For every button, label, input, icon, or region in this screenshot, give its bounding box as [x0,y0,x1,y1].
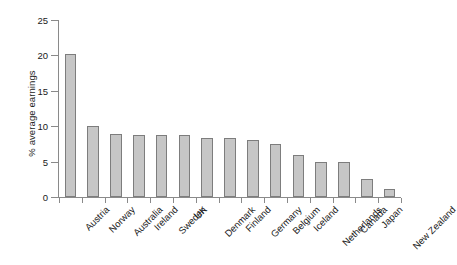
y-axis-tick-mark [51,91,58,92]
y-axis-tick-mark [51,162,58,163]
x-axis-tick-mark [173,198,174,203]
bar [270,144,282,197]
x-axis-category-label: New Zealand [410,204,457,251]
bar [65,54,77,197]
x-axis-line [58,197,401,198]
x-axis-tick-mark [105,198,106,203]
y-axis-tick-label: 5 [8,156,48,167]
bar [201,138,213,197]
bar [87,126,99,197]
y-axis-tick-label: 0 [8,192,48,203]
x-axis-tick-mark [401,198,402,203]
bar [361,179,373,197]
y-axis-tick-mark [51,126,58,127]
x-axis-tick-mark [241,198,242,203]
y-axis-tick-label: 15 [8,85,48,96]
x-axis-tick-mark [264,198,265,203]
x-axis-tick-mark [150,198,151,203]
y-axis-tick-mark [51,55,58,56]
plot-area [59,20,401,197]
x-axis-tick-mark [59,198,60,203]
bar [224,138,236,197]
x-axis-tick-mark [219,198,220,203]
bar [315,162,327,197]
bar [384,189,396,197]
y-axis-tick-label: 25 [8,15,48,26]
bar [247,140,259,197]
x-axis-tick-mark [287,198,288,203]
bar [156,135,168,197]
x-axis-tick-mark [127,198,128,203]
y-axis-tick-mark [51,20,58,21]
bar [133,135,145,197]
x-axis-tick-mark [196,198,197,203]
x-axis-tick-mark [82,198,83,203]
y-axis-tick-mark [51,197,58,198]
x-axis-tick-mark [333,198,334,203]
x-axis-tick-mark [310,198,311,203]
y-axis-tick-label: 20 [8,50,48,61]
bar [293,155,305,197]
y-axis-tick-label: 10 [8,121,48,132]
bar [179,135,191,197]
x-axis-tick-mark [378,198,379,203]
x-axis-tick-mark [355,198,356,203]
y-axis-title: % average earnings [26,19,37,209]
bar [338,162,350,197]
bar [110,134,122,197]
